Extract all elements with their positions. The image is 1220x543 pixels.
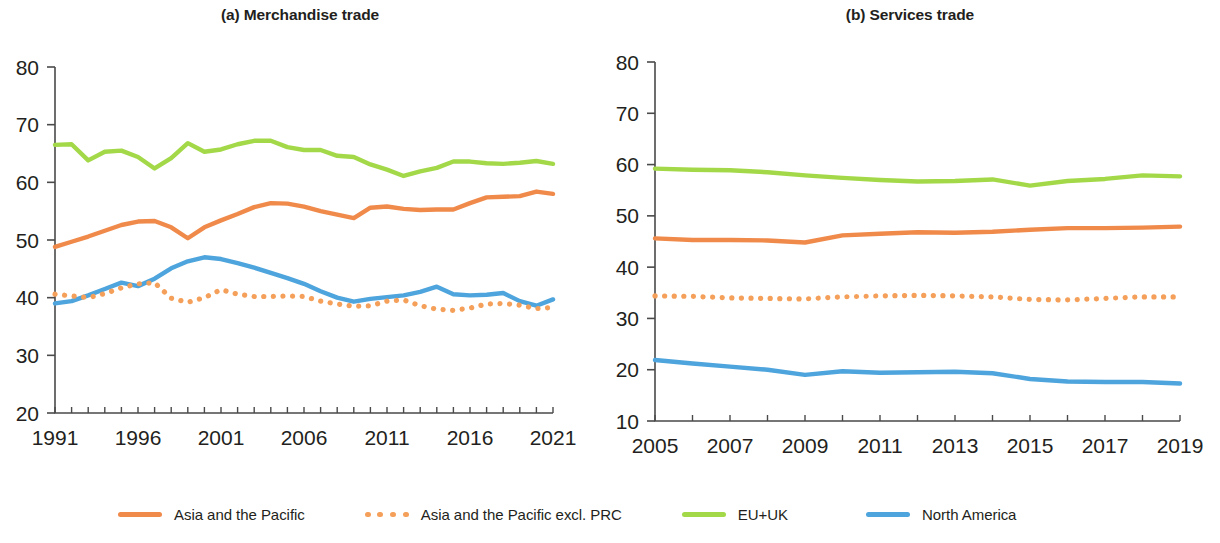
legend-item-north-america: North America [866, 506, 1016, 523]
y-tick-label: 80 [16, 56, 39, 79]
y-tick-label: 60 [616, 153, 639, 176]
x-tick-label: 2019 [1157, 434, 1204, 457]
y-tick-label: 80 [616, 51, 639, 74]
x-tick-label: 2006 [281, 426, 328, 449]
x-tick-label: 2011 [364, 426, 409, 449]
x-tick-label: 2021 [530, 426, 577, 449]
legend-label-asia-and-the-pacific: Asia and the Pacific [174, 506, 305, 523]
series-line [55, 257, 553, 305]
y-tick-label: 30 [616, 307, 639, 330]
legend-swatch-solid-blue [866, 512, 910, 517]
y-tick-label: 20 [16, 402, 39, 425]
legend-swatch-solid-green [682, 512, 726, 517]
x-tick-label: 2015 [1007, 434, 1054, 457]
x-tick-label: 2005 [632, 434, 679, 457]
legend-item-eu-uk: EU+UK [682, 506, 788, 523]
chart-panel-services-trade: (b) Services trade 102030405060708020052… [600, 0, 1220, 490]
y-tick-label: 40 [616, 256, 639, 279]
y-tick-label: 60 [16, 171, 39, 194]
x-tick-label: 2011 [857, 434, 902, 457]
y-tick-label: 30 [16, 344, 39, 367]
legend-label-north-america: North America [922, 506, 1016, 523]
x-tick-label: 1996 [115, 426, 162, 449]
legend-row: Asia and the Pacific Asia and the Pacifi… [118, 506, 1118, 523]
legend-swatch-solid-orange [118, 512, 162, 517]
x-tick-label: 2016 [447, 426, 494, 449]
chart-legend: Asia and the Pacific Asia and the Pacifi… [0, 498, 1220, 543]
series-line [655, 295, 1180, 300]
merchandise-trade-plot: 2030405060708019911996200120062011201620… [0, 0, 600, 490]
x-tick-label: 2007 [707, 434, 754, 457]
series-line [655, 227, 1180, 243]
series-line [55, 192, 553, 247]
x-tick-label: 2001 [198, 426, 245, 449]
figure-container: (a) Merchandise trade 203040506070801991… [0, 0, 1220, 543]
legend-label-eu-uk: EU+UK [738, 506, 788, 523]
x-tick-label: 1991 [32, 426, 79, 449]
y-tick-label: 10 [616, 410, 639, 433]
legend-item-asia-and-the-pacific-excl-prc: Asia and the Pacific excl. PRC [365, 506, 622, 523]
legend-item-asia-and-the-pacific: Asia and the Pacific [118, 506, 305, 523]
y-tick-label: 40 [16, 286, 39, 309]
y-tick-label: 50 [16, 229, 39, 252]
services-trade-plot: 1020304050607080200520072009201120132015… [600, 0, 1220, 490]
legend-swatch-dotted-orange [365, 512, 409, 517]
x-tick-label: 2013 [932, 434, 979, 457]
legend-label-asia-and-the-pacific-excl-prc: Asia and the Pacific excl. PRC [421, 506, 622, 523]
y-tick-label: 70 [16, 113, 39, 136]
series-line [655, 360, 1180, 384]
x-tick-label: 2009 [782, 434, 829, 457]
series-line [55, 141, 553, 176]
series-line [655, 169, 1180, 186]
y-tick-label: 50 [616, 204, 639, 227]
chart-panel-merchandise-trade: (a) Merchandise trade 203040506070801991… [0, 0, 600, 490]
y-tick-label: 20 [616, 358, 639, 381]
x-tick-label: 2017 [1082, 434, 1129, 457]
y-tick-label: 70 [616, 102, 639, 125]
